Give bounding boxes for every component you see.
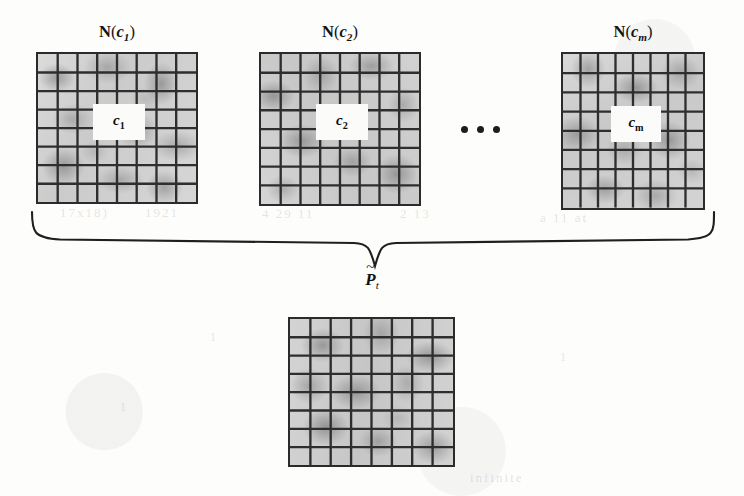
neighborhood-label-1-prefix: N <box>99 22 111 41</box>
scan-ghost-text: 1 <box>120 400 128 415</box>
neighborhood-label-m-sub: m <box>638 31 647 43</box>
result-label-var: ~P <box>365 270 375 290</box>
neighborhood-block-2: N(c2) <box>259 22 421 206</box>
neighborhood-label-1: N(c1) <box>36 22 198 43</box>
center-pixel-sub-m: m <box>635 122 644 133</box>
neighborhood-grid-1: c1 <box>36 52 198 204</box>
neighborhood-label-2-prefix: N <box>322 22 334 41</box>
scan-ghost-text: infinite <box>470 470 524 486</box>
result-grid <box>288 317 455 467</box>
neighborhood-label-m: N(cm) <box>561 22 705 43</box>
center-pixel-label-2: c2 <box>316 112 368 131</box>
neighborhood-label-1-close: ) <box>129 22 135 41</box>
result-label-sub: t <box>376 279 379 291</box>
neighborhood-label-2-close: ) <box>352 22 358 41</box>
neighborhood-block-m: N(cm) <box>561 22 705 210</box>
figure-canvas: 17x18)19214 29 112 13a 11 at111infinite … <box>0 0 744 496</box>
scan-ghost-text: 1 <box>210 330 218 345</box>
ellipsis-icon <box>461 126 500 133</box>
center-pixel-label-m: cm <box>611 114 661 133</box>
neighborhood-grid-2: c2 <box>259 52 421 206</box>
center-pixel-var-2: c <box>336 112 343 128</box>
neighborhood-label-1-var: c <box>116 22 123 41</box>
center-pixel-var-1: c <box>113 112 120 128</box>
neighborhood-label-2-var: c <box>339 22 346 41</box>
neighborhood-label-m-prefix: N <box>614 22 626 41</box>
grid-texture <box>290 319 453 465</box>
center-pixel-sub-2: 2 <box>343 120 348 131</box>
neighborhood-label-m-close: ) <box>647 22 653 41</box>
result-block <box>288 317 455 467</box>
ellipsis-dot <box>493 126 500 133</box>
neighborhood-grid-m: cm <box>561 52 705 210</box>
ellipsis-dot <box>477 126 484 133</box>
center-pixel-label-1: c1 <box>93 112 145 131</box>
center-pixel-sub-1: 1 <box>120 120 125 131</box>
result-label: ~P t <box>0 270 744 291</box>
scan-ghost-text: 1 <box>560 350 568 365</box>
ellipsis-dot <box>461 126 468 133</box>
tilde-accent-icon: ~ <box>366 259 374 275</box>
neighborhood-label-2: N(c2) <box>259 22 421 43</box>
neighborhood-block-1: N(c1) <box>36 22 198 204</box>
